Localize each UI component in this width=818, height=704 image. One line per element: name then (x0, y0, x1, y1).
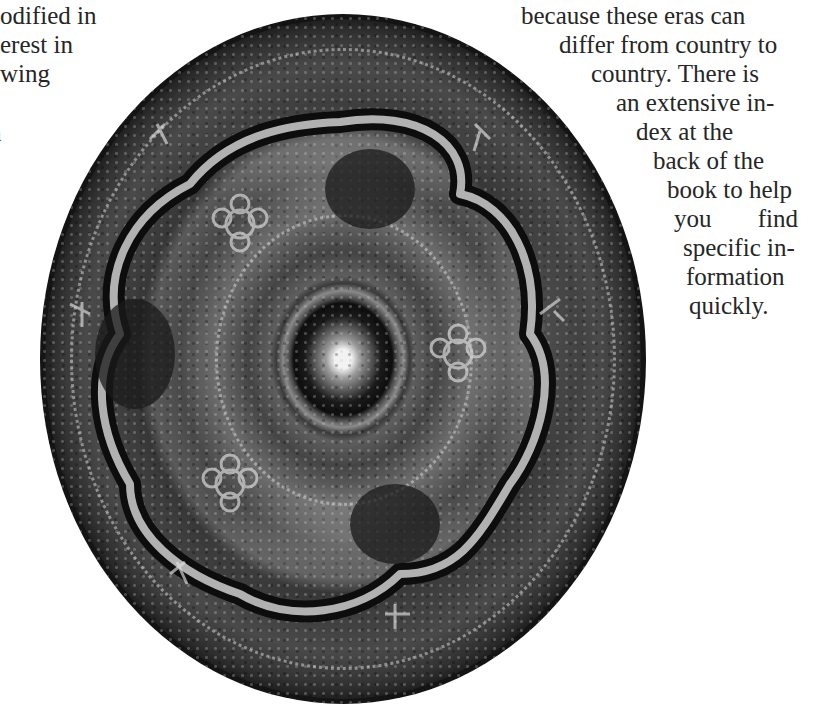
dragon-serpent-relief-icon (40, 14, 646, 704)
right-text-line-10: formation (686, 262, 785, 292)
right-text-line-5: dex at the (636, 117, 733, 147)
left-text-line-4: n (0, 118, 2, 148)
right-text-line-9: specific in- (683, 233, 795, 263)
right-text-line-8: you find (674, 204, 798, 234)
right-text-line-7: book to help (667, 175, 792, 205)
right-text-line-11: quickly. (689, 291, 769, 321)
bronze-mirror-photo (40, 14, 646, 704)
right-text-line-6: back of the (653, 146, 764, 176)
